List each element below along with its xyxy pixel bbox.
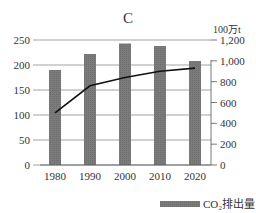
- chart-title: C: [123, 10, 133, 26]
- right-tick-label: 200: [220, 138, 237, 150]
- bar-2010: [154, 46, 166, 165]
- bar-series: [49, 44, 201, 166]
- left-tick-label: 50: [19, 134, 31, 146]
- right-axis: 02004006008001,0001,200: [211, 34, 245, 171]
- left-tick-label: 0: [25, 159, 31, 171]
- x-tick-label: 1980: [44, 170, 67, 182]
- right-tick-label: 1,200: [220, 34, 245, 46]
- right-tick-label: 800: [220, 76, 237, 88]
- legend-label: CO₂排出量: [203, 197, 255, 210]
- bar-1990: [84, 54, 96, 165]
- legend-swatch: [160, 201, 200, 207]
- right-tick-label: 0: [220, 159, 226, 171]
- left-tick-label: 150: [14, 84, 31, 96]
- bar-1980: [49, 70, 61, 165]
- left-axis: 050100150200250: [14, 34, 41, 171]
- x-tick-label: 2000: [114, 170, 137, 182]
- x-axis: 19801990200020102020: [40, 165, 211, 182]
- left-tick-label: 100: [14, 109, 31, 121]
- x-tick-label: 2010: [149, 170, 172, 182]
- right-tick-label: 400: [220, 117, 237, 129]
- chart: C 100万t 050100150200250 02004006008001,0…: [0, 0, 256, 213]
- left-tick-label: 250: [14, 34, 31, 46]
- x-tick-label: 1990: [79, 170, 102, 182]
- x-tick-label: 2020: [184, 170, 207, 182]
- left-tick-label: 200: [14, 59, 31, 71]
- right-tick-label: 600: [220, 97, 237, 109]
- bar-2000: [119, 44, 131, 166]
- legend: CO₂排出量: [160, 197, 255, 210]
- bar-2020: [189, 61, 201, 165]
- right-tick-label: 1,000: [220, 55, 245, 67]
